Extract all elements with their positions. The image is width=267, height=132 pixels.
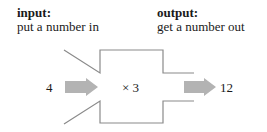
input-value: 4 bbox=[46, 81, 53, 95]
machine-operation: × 3 bbox=[122, 81, 139, 95]
output-arrow-icon bbox=[184, 78, 216, 96]
function-machine-diagram bbox=[0, 0, 267, 132]
machine-bottom-edge bbox=[64, 101, 194, 124]
input-arrow-icon bbox=[65, 78, 98, 96]
machine-top-edge bbox=[64, 50, 194, 73]
output-value: 12 bbox=[220, 81, 233, 95]
